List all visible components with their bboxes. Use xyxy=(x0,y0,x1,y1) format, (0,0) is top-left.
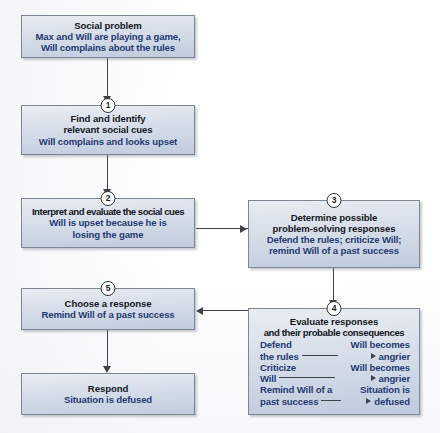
node-determine-responses-title-2: problem-solving responses xyxy=(273,223,396,234)
node-find-identify-title-2: relevant social cues xyxy=(63,124,152,135)
consequence-list: Defend Will becomes the rules angrier Cr… xyxy=(249,339,419,406)
consequence-row-3b: past success defused xyxy=(260,396,410,407)
consequence-row-2b: Will angrier xyxy=(260,373,410,384)
consequence-effect-2-line-2-text: angrier xyxy=(379,373,410,384)
arrowhead-to-choose xyxy=(196,307,203,315)
connector-evaluate-to-choose xyxy=(200,310,248,311)
consequence-cause-3-line-1: Remind Will of a xyxy=(260,384,344,395)
node-determine-responses-line-1: Defend the rules; criticize Will; xyxy=(267,234,402,245)
flowchart-canvas: Social problem Max and Will are playing … xyxy=(0,0,440,433)
node-interpret-evaluate-line-2: losing the game xyxy=(73,229,144,240)
node-choose-response[interactable]: 5 Choose a response Remind Will of a pas… xyxy=(21,288,195,330)
consequence-arrow-line-2 xyxy=(279,377,335,378)
node-determine-responses-line-2: remind Will of a past success xyxy=(269,245,399,256)
consequence-arrow-line-3 xyxy=(321,400,341,401)
consequence-arrowhead-1 xyxy=(371,353,376,359)
consequence-cause-2-line-2-text: Will xyxy=(260,373,276,384)
consequence-arrowhead-2 xyxy=(371,375,376,381)
consequence-effect-1-line-2-text: angrier xyxy=(379,351,410,362)
node-determine-responses[interactable]: 3 Determine possible problem-solving res… xyxy=(248,200,420,268)
node-find-identify[interactable]: 1 Find and identify relevant social cues… xyxy=(21,105,195,155)
node-determine-responses-title-1: Determine possible xyxy=(291,212,378,223)
node-respond[interactable]: Respond Situation is defused xyxy=(21,373,195,415)
consequence-row-1b: the rules angrier xyxy=(260,351,410,362)
node-choose-response-title-1: Choose a response xyxy=(65,298,152,309)
consequence-arrowhead-3 xyxy=(366,398,371,404)
consequence-arrow-line-1 xyxy=(302,355,338,356)
node-evaluate-responses[interactable]: 4 Evaluate responses and their probable … xyxy=(248,308,420,415)
consequence-effect-3-line-1: Situation is xyxy=(360,384,410,395)
arrowhead-to-determine xyxy=(240,225,247,233)
consequence-row-1a: Defend Will becomes xyxy=(260,339,410,350)
consequence-effect-3-line-2-text: defused xyxy=(374,396,410,407)
node-evaluate-responses-title-1: Evaluate responses xyxy=(290,316,378,327)
node-interpret-evaluate-line-1: Will is upset because he is xyxy=(49,217,166,228)
node-choose-response-line-1: Remind Will of a past success xyxy=(41,309,174,320)
step-badge-3: 3 xyxy=(327,193,342,208)
node-evaluate-responses-title-2: and their probable consequences xyxy=(264,327,405,338)
consequence-row-3a: Remind Will of a Situation is xyxy=(260,384,410,395)
node-find-identify-title-1: Find and identify xyxy=(70,113,145,124)
consequence-effect-1-line-1: Will becomes xyxy=(351,339,410,350)
consequence-row-2a: Criticize Will becomes xyxy=(260,362,410,373)
consequence-effect-2-line-1: Will becomes xyxy=(351,362,410,373)
node-respond-line-1: Situation is defused xyxy=(64,394,152,405)
node-find-identify-line-1: Will complains and looks upset xyxy=(39,136,177,147)
consequence-cause-3-line-2-text: past success xyxy=(260,396,318,407)
consequence-effect-3-line-2: defused xyxy=(366,396,410,407)
arrowhead-to-respond xyxy=(103,366,111,373)
connector-social-problem-to-find xyxy=(107,58,108,98)
node-social-problem[interactable]: Social problem Max and Will are playing … xyxy=(21,15,195,58)
consequence-cause-1-line-1: Defend xyxy=(260,339,344,350)
node-interpret-evaluate[interactable]: 2 Interpret and evaluate the social cues… xyxy=(21,198,195,248)
node-interpret-evaluate-title-1: Interpret and evaluate the social cues xyxy=(32,206,184,217)
consequence-effect-2-line-2: angrier xyxy=(371,373,410,384)
node-social-problem-title: Social problem xyxy=(74,20,141,31)
connector-find-to-interpret xyxy=(107,155,108,191)
step-badge-1: 1 xyxy=(101,98,116,113)
step-badge-5: 5 xyxy=(101,281,116,296)
node-social-problem-line-2: Will complains about the rules xyxy=(41,42,175,53)
consequence-cause-1-line-2: the rules xyxy=(260,351,344,362)
consequence-cause-2-line-1: Criticize xyxy=(260,362,344,373)
consequence-effect-1-line-2: angrier xyxy=(371,351,410,362)
connector-determine-to-evaluate xyxy=(333,268,334,302)
node-social-problem-line-1: Max and Will are playing a game, xyxy=(36,31,181,42)
step-badge-4: 4 xyxy=(327,301,342,316)
consequence-cause-2-line-2: Will xyxy=(260,373,344,384)
consequence-cause-1-line-2-text: the rules xyxy=(260,351,299,362)
consequence-cause-3-line-2: past success xyxy=(260,396,344,407)
connector-choose-to-respond xyxy=(107,330,108,368)
node-respond-title-1: Respond xyxy=(88,383,128,394)
step-badge-2: 2 xyxy=(101,191,116,206)
